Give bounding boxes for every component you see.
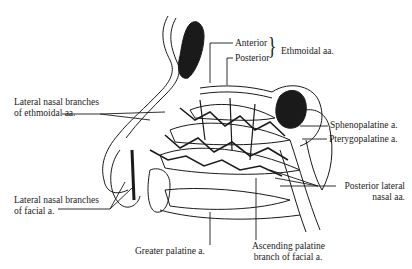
leader-posterior [227, 58, 233, 85]
label-lateral-nasal-facial-2: of facial a. [14, 206, 54, 217]
label-ethmoidal-aa: Ethmoidal aa. [281, 46, 334, 57]
nasal-bridge-outline [103, 16, 173, 193]
label-lateral-nasal-ethmoidal-2: of ethmoidal aa. [14, 108, 75, 119]
label-lateral-nasal-facial-1: Lateral nasal branches [14, 195, 99, 206]
label-lateral-nasal-ethmoidal-1: Lateral nasal branches [14, 97, 99, 108]
brace-ethmoidal: } [268, 33, 277, 59]
label-ascending-palatine-1: Ascending palatine [252, 241, 324, 252]
inferior-concha [160, 148, 300, 174]
label-pterygopalatine: Pterygopalatine a. [329, 134, 398, 145]
sphenoid-sinus [276, 90, 306, 128]
label-posterior: Posterior [235, 53, 269, 64]
middle-concha [170, 123, 290, 145]
label-greater-palatine: Greater palatine a. [135, 246, 205, 257]
facial-artery-branch [132, 150, 134, 200]
label-posterior-lateral-2: nasal aa. [330, 192, 405, 203]
label-ascending-palatine-2: branch of facial a. [252, 252, 324, 263]
label-posterior-lateral-1: Posterior lateral [330, 181, 405, 192]
frontal-sinus [178, 22, 204, 79]
label-anterior: Anterior [235, 38, 267, 49]
nasal-bridge-outline-inner [126, 18, 179, 138]
leader-lateral-nasal-ethmoidal [62, 112, 165, 120]
label-sphenopalatine: Sphenopalatine a. [330, 120, 398, 131]
nasal-ala [111, 150, 140, 207]
leader-anterior [210, 43, 233, 83]
hard-palate [165, 188, 290, 209]
